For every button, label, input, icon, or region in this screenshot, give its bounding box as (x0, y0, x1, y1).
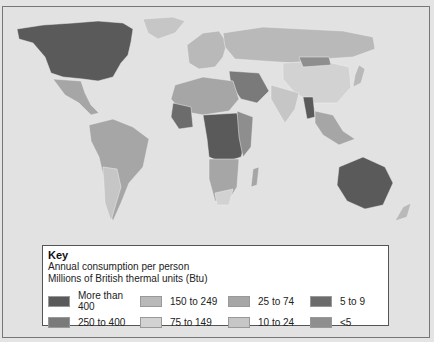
color-swatch (228, 317, 250, 328)
key-item: 10 to 24 (228, 317, 310, 328)
color-swatch (48, 317, 70, 328)
region-japan (353, 65, 365, 87)
region-new-zealand (395, 203, 411, 221)
key-subtitle: Annual consumption per person (48, 261, 383, 273)
key-item: 250 to 400 (48, 317, 140, 328)
key-item: <5 (310, 317, 380, 328)
color-swatch (48, 296, 70, 307)
region-north-america (17, 21, 133, 81)
region-central-america (53, 79, 99, 115)
region-argentina (103, 167, 121, 221)
region-southeast-asia (315, 111, 355, 145)
key-item: 150 to 249 (140, 290, 228, 312)
map-key: Key Annual consumption per person Millio… (42, 245, 389, 326)
region-mongolia (299, 57, 331, 67)
region-madagascar (251, 167, 259, 187)
region-west-africa (171, 103, 193, 129)
region-south-america (89, 119, 149, 221)
key-item: More than 400 (48, 290, 140, 312)
color-swatch (140, 296, 162, 307)
key-title: Key (48, 249, 383, 261)
region-greenland (143, 17, 185, 39)
key-item: 25 to 74 (228, 290, 310, 312)
key-item: 5 to 9 (310, 290, 380, 312)
region-myanmar (303, 97, 315, 119)
key-units: Millions of British thermal units (Btu) (48, 273, 383, 285)
color-swatch (310, 296, 332, 307)
key-item: 75 to 149 (140, 317, 228, 328)
color-swatch (228, 296, 250, 307)
region-europe (187, 31, 227, 69)
key-items: More than 400 150 to 249 25 to 74 5 to 9… (48, 290, 383, 328)
color-swatch (310, 317, 332, 328)
color-swatch (140, 317, 162, 328)
region-australia (337, 157, 393, 209)
